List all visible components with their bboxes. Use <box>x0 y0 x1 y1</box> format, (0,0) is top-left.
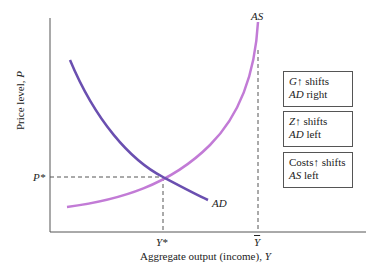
y-bar-label: Y <box>254 236 260 248</box>
box-text: ↑ shifts <box>295 115 327 127</box>
annotation-box-g: G↑ shifts AD right <box>283 71 353 107</box>
as-curve <box>67 22 258 207</box>
ad-label: AD <box>212 197 227 209</box>
x-axis-title: Aggregate output (income), Y <box>140 250 271 262</box>
annotation-box-z: Z↑ shifts AD left <box>283 111 353 147</box>
x-axis-title-var: Y <box>265 250 271 262</box>
box-text: left <box>301 169 318 181</box>
box-text: ↑ shifts <box>313 156 345 168</box>
y-axis-title-text: Price level, <box>14 78 26 130</box>
box-var: AD <box>289 128 304 140</box>
box-var: Costs <box>289 156 313 168</box>
y-star-label: Y* <box>156 236 168 248</box>
as-label: AS <box>251 10 263 22</box>
annotation-box-costs: Costs↑ shifts AS left <box>283 152 353 188</box>
y-axis-title: Price level, P <box>14 71 26 130</box>
ad-curve <box>70 60 208 200</box>
x-axis-title-text: Aggregate output (income), <box>140 250 265 262</box>
box-var: AD <box>289 88 304 100</box>
y-axis-title-var: P <box>14 71 26 78</box>
box-text: left <box>304 128 321 140</box>
box-var: G <box>289 75 297 87</box>
p-star-label: P* <box>33 171 45 183</box>
box-text: ↑ shifts <box>297 75 329 87</box>
box-text: right <box>304 88 328 100</box>
box-var: AS <box>289 169 301 181</box>
